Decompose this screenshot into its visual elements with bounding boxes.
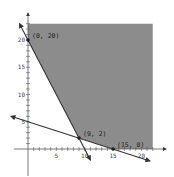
y-tick-label: 20	[18, 36, 26, 43]
vertex-point	[111, 147, 115, 151]
x-tick-label: 5	[55, 152, 59, 159]
vertex-label: (9, 2)	[83, 130, 106, 138]
y-tick-label: 10	[18, 91, 26, 98]
vertex-point	[77, 136, 81, 140]
y-tick-label: 15	[18, 63, 26, 70]
vertex-point	[26, 38, 30, 42]
x-tick-label: 15	[109, 152, 117, 159]
chart: 51015205101520 (0, 20)(9, 2)(15, 0)	[0, 0, 174, 177]
chart-svg: 51015205101520 (0, 20)(9, 2)(15, 0)	[0, 0, 174, 177]
vertex-label: (15, 0)	[117, 141, 144, 149]
vertex-label: (0, 20)	[32, 32, 59, 40]
